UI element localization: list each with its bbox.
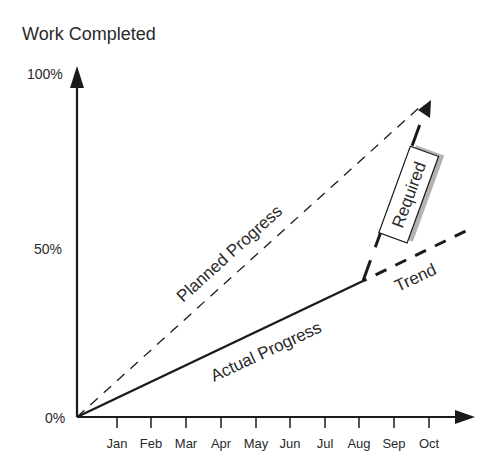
x-tick-jul: Jul — [317, 436, 334, 451]
trend-label: Trend — [392, 260, 440, 296]
chart: Work Completed 100% 50% 0% Jan Feb Mar A… — [0, 0, 504, 476]
x-axis-arrow-icon — [455, 410, 475, 424]
x-tick-feb: Feb — [140, 436, 162, 451]
required-callout: Required — [379, 143, 444, 244]
x-tick-jun: Jun — [280, 436, 301, 451]
x-tick-aug: Aug — [347, 436, 370, 451]
x-tick-sep: Sep — [382, 436, 405, 451]
required-arrow-icon — [418, 100, 431, 118]
y-tick-50: 50% — [34, 241, 62, 257]
x-tick-jan: Jan — [107, 436, 128, 451]
x-tick-may: May — [244, 436, 269, 451]
chart-title: Work Completed — [22, 24, 156, 44]
x-tick-oct: Oct — [419, 436, 440, 451]
y-axis-arrow-icon — [70, 66, 84, 88]
planned-progress-label: Planned Progress — [173, 201, 286, 306]
y-tick-100: 100% — [27, 66, 63, 82]
x-tick-apr: Apr — [211, 436, 232, 451]
actual-progress-line — [77, 281, 363, 417]
x-tick-mar: Mar — [175, 436, 198, 451]
x-ticks — [117, 417, 429, 428]
y-tick-0: 0% — [45, 410, 65, 426]
